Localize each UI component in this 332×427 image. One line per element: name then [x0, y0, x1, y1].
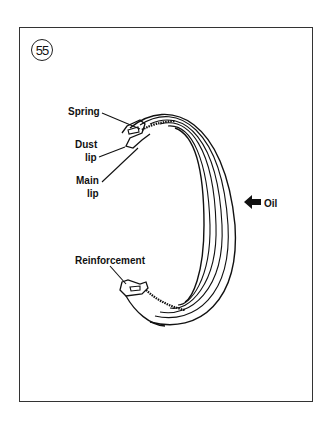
oil-seal-illustration	[0, 0, 332, 427]
spring-coil-bottom	[146, 290, 185, 310]
oil-arrow-icon	[244, 195, 261, 209]
spring-leader	[102, 113, 140, 129]
label-dust-lip-line2: lip	[85, 152, 97, 164]
label-spring: Spring	[68, 106, 100, 118]
label-dust-lip-line1: Dust	[75, 139, 97, 151]
main-lip-leader	[102, 148, 138, 182]
label-oil: Oil	[264, 198, 277, 210]
label-reinforcement: Reinforcement	[75, 255, 145, 267]
ring-outer-arc	[130, 114, 235, 324]
reinforcement-leader	[110, 266, 126, 284]
label-main-lip-line2: lip	[87, 188, 99, 200]
label-main-lip-line1: Main	[76, 175, 99, 187]
dust-lip-leader	[99, 147, 125, 157]
